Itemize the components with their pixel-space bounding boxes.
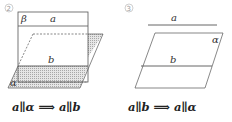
plane-alpha [135,33,223,88]
label-alpha: α [212,34,219,45]
plane-alpha-shade-right [88,34,103,57]
label-a: a [171,12,177,23]
label-beta: β [20,13,27,24]
label-b: b [170,54,176,65]
figure-number: 3 [127,5,131,13]
formula-figure-2: a∥α ⟹ a∥b [12,100,80,114]
formula-figure-3: a∥b ⟹ a∥α [128,100,196,114]
label-a: a [50,13,56,24]
plane-alpha-shade-bottom [8,66,88,88]
figure-number: 2 [7,5,11,13]
plane-alpha-hidden-left [18,34,33,66]
figure-2: 2 β a b α [5,4,103,88]
label-b: b [48,54,54,65]
figure-3: 3 a α b [125,4,223,88]
label-alpha: α [10,77,17,88]
